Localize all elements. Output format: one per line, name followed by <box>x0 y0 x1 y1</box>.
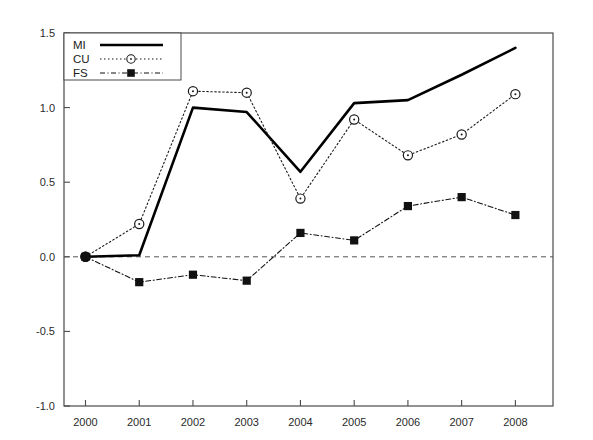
x-tick-label: 2003 <box>234 416 258 428</box>
data-point-center-dot-icon <box>514 93 516 95</box>
y-tick-label: -0.5 <box>36 325 55 337</box>
y-tick-label: 0.0 <box>40 251 55 263</box>
series-line-fs <box>85 197 515 282</box>
data-point-center-dot-icon <box>461 133 463 135</box>
series-lines <box>85 48 515 282</box>
data-point-origin-2000 <box>80 252 90 262</box>
x-tick-label: 2000 <box>73 416 97 428</box>
x-tick-label: 2006 <box>396 416 420 428</box>
x-tick-label: 2004 <box>288 416 312 428</box>
data-point-fs-2006 <box>404 202 412 210</box>
line-chart: -1.0-0.50.00.51.01.5 2000200120022003200… <box>0 0 593 440</box>
x-axis-tick-labels: 200020012002200320042005200620072008 <box>73 416 527 428</box>
y-axis-ticks <box>64 33 70 406</box>
chart-container: -1.0-0.50.00.51.01.5 2000200120022003200… <box>0 0 593 440</box>
legend-marker-cu-center-dot-icon <box>130 58 132 60</box>
data-point-fs-2003 <box>243 277 251 285</box>
data-point-center-dot-icon <box>138 223 140 225</box>
data-point-fs-2007 <box>458 193 466 201</box>
data-point-fs-2002 <box>189 271 197 279</box>
data-point-center-dot-icon <box>407 154 409 156</box>
data-point-fs-2001 <box>135 278 143 286</box>
x-tick-label: 2005 <box>342 416 366 428</box>
y-tick-label: 1.5 <box>40 27 55 39</box>
legend-label-fs: FS <box>73 67 88 79</box>
y-tick-label: 1.0 <box>40 102 55 114</box>
legend-marker-fs-filled-square-icon <box>127 69 135 77</box>
data-point-fs-2004 <box>296 229 304 237</box>
y-tick-label: 0.5 <box>40 176 55 188</box>
x-tick-label: 2002 <box>181 416 205 428</box>
data-point-center-dot-icon <box>192 90 194 92</box>
data-point-center-dot-icon <box>299 198 301 200</box>
y-tick-label: -1.0 <box>36 400 55 412</box>
legend-label-cu: CU <box>73 53 90 65</box>
data-point-center-dot-icon <box>246 92 248 94</box>
data-point-center-dot-icon <box>353 119 355 121</box>
x-tick-label: 2008 <box>503 416 527 428</box>
data-point-fs-2008 <box>511 211 519 219</box>
x-tick-label: 2001 <box>127 416 151 428</box>
legend: MI CU FS <box>64 33 181 80</box>
x-tick-label: 2007 <box>449 416 473 428</box>
data-point-fs-2005 <box>350 236 358 244</box>
legend-label-mi: MI <box>73 39 86 51</box>
x-axis-ticks <box>85 400 515 406</box>
y-axis-tick-labels: -1.0-0.50.00.51.01.5 <box>36 27 55 412</box>
